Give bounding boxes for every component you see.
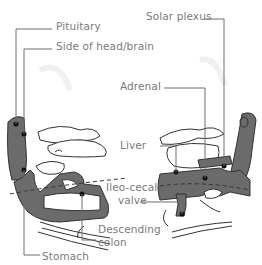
reflexology-foot-diagram: Pituitary Side of head/brain Solar plexu… xyxy=(0,0,262,265)
right-foot xyxy=(158,113,256,238)
label-adrenal: Adrenal xyxy=(120,80,161,92)
label-descending-colon-line1: Descending xyxy=(98,223,161,235)
label-ileo-cecal-line2: valve xyxy=(118,194,147,206)
leader-pituitary xyxy=(16,29,52,124)
label-solar-plexus: Solar plexus xyxy=(146,10,212,22)
label-ileo-cecal-line1: Ileo-cecal xyxy=(106,181,157,193)
label-pituitary: Pituitary xyxy=(56,20,101,32)
label-stomach: Stomach xyxy=(42,250,89,262)
label-descending-colon-line2: colon xyxy=(98,236,127,248)
right-big-toe-shaded xyxy=(230,113,256,180)
label-side-of-head: Side of head/brain xyxy=(56,40,154,52)
leader-side-of-head xyxy=(24,49,52,134)
label-liver: Liver xyxy=(120,139,146,151)
